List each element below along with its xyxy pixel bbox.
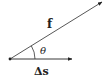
- origin-point: [9, 58, 12, 61]
- vector-diagram: f θ Δs: [0, 0, 112, 82]
- label-theta: θ: [40, 45, 46, 56]
- label-delta-s: Δs: [34, 65, 49, 78]
- angle-arc: [31, 46, 35, 59]
- label-f: f: [47, 17, 53, 31]
- vector-f: [10, 2, 102, 59]
